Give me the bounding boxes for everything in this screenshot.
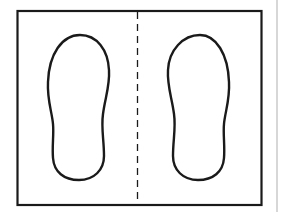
right-footprint: [168, 35, 229, 180]
left-footprint: [48, 35, 109, 180]
footprints-diagram: [0, 0, 292, 212]
frame-rectangle: [18, 11, 262, 205]
